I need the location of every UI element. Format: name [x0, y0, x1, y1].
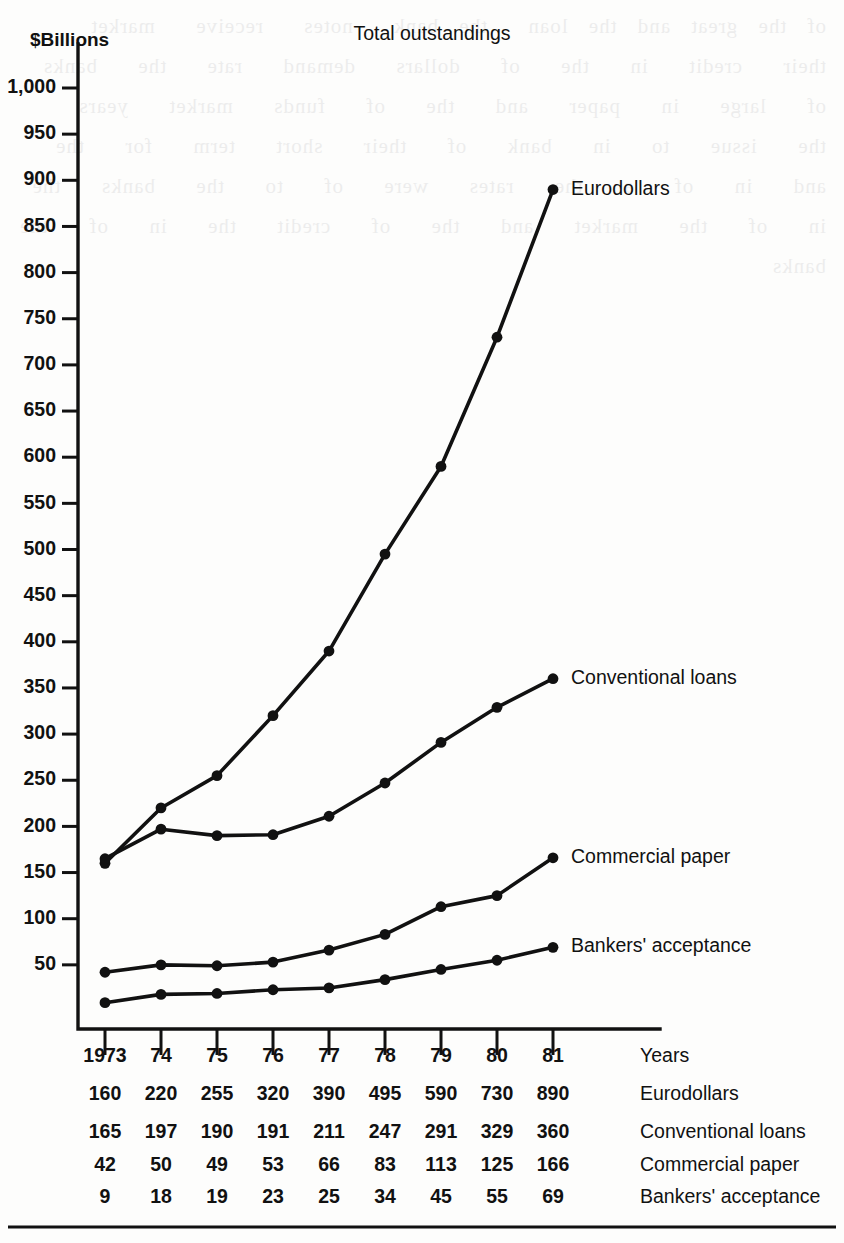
- table-cell: 76: [262, 1044, 284, 1066]
- chart-title: Total outstandings: [353, 22, 510, 44]
- series-point: [156, 959, 167, 970]
- table-row-label: Conventional loans: [640, 1120, 806, 1142]
- series-point: [436, 901, 447, 912]
- total-outstandings-line-chart: Total outstandings $Billions 1,000950900…: [0, 0, 844, 1243]
- series-point: [156, 803, 167, 814]
- series-point: [492, 955, 503, 966]
- series-label-0: Eurodollars: [571, 177, 670, 199]
- series-point: [212, 960, 223, 971]
- table-cell: 390: [313, 1082, 346, 1104]
- y-axis-tick-label: 550: [23, 491, 56, 513]
- series-point: [492, 890, 503, 901]
- table-cell: 83: [374, 1153, 396, 1175]
- series-point: [100, 853, 111, 864]
- table-cell: 160: [89, 1082, 122, 1104]
- table-cell: 55: [486, 1185, 508, 1207]
- y-axis-tick-label: 1,000: [7, 75, 56, 97]
- series-label-1: Conventional loans: [571, 666, 737, 688]
- table-cell: 1973: [83, 1044, 127, 1066]
- table-cell: 125: [481, 1153, 514, 1175]
- y-axis-tick-label: 600: [23, 444, 56, 466]
- table-row-label: Commercial paper: [640, 1153, 800, 1175]
- table-cell: 165: [89, 1120, 122, 1142]
- series-point: [324, 983, 335, 994]
- series-point: [548, 673, 559, 684]
- series-point: [380, 974, 391, 985]
- series-line-0: [105, 190, 553, 864]
- table-cell: 80: [486, 1044, 508, 1066]
- table-cell: 495: [369, 1082, 402, 1104]
- series-point: [100, 967, 111, 978]
- series-point: [156, 824, 167, 835]
- series-line-3: [105, 947, 553, 1002]
- table-cell: 166: [537, 1153, 570, 1175]
- table-cell: 18: [150, 1185, 172, 1207]
- table-cell: 23: [262, 1185, 284, 1207]
- table-cell: 211: [313, 1120, 345, 1142]
- series-point: [380, 549, 391, 560]
- series-point: [380, 929, 391, 940]
- series-point: [548, 852, 559, 863]
- table-cell: 74: [150, 1044, 172, 1066]
- series-point: [212, 770, 223, 781]
- table-row-label: Bankers' acceptance: [640, 1185, 820, 1207]
- series-point: [324, 811, 335, 822]
- y-axis-tick-label: 500: [23, 537, 56, 559]
- y-axis-tick-label: 200: [23, 814, 56, 836]
- table-cell: 255: [201, 1082, 234, 1104]
- series-group: [100, 184, 559, 1008]
- y-axis-tick-label: 950: [23, 121, 56, 143]
- series-point: [548, 942, 559, 953]
- table-row-label: Eurodollars: [640, 1082, 739, 1104]
- y-axis-tick-label: 800: [23, 260, 56, 282]
- table-cell: 25: [318, 1185, 340, 1207]
- y-axis-tick-label: 900: [23, 167, 56, 189]
- data-table-group: 19737475767778798081Years160220255320390…: [83, 1044, 820, 1207]
- table-cell: 220: [145, 1082, 178, 1104]
- table-cell: 42: [94, 1153, 116, 1175]
- page-canvas: of the great and the loan the bank notes…: [0, 0, 844, 1243]
- y-axis-tick-label: 150: [23, 860, 56, 882]
- series-point: [100, 997, 111, 1008]
- table-cell: 890: [537, 1082, 570, 1104]
- table-cell: 45: [430, 1185, 452, 1207]
- y-axis-tick-label: 350: [23, 675, 56, 697]
- table-cell: 77: [318, 1044, 340, 1066]
- series-labels-group: EurodollarsConventional loansCommercial …: [571, 177, 751, 957]
- series-point: [436, 737, 447, 748]
- y-axis-tick-label: 850: [23, 214, 56, 236]
- y-axis-tick-label: 250: [23, 767, 56, 789]
- table-cell: 730: [481, 1082, 514, 1104]
- table-cell: 247: [369, 1120, 402, 1142]
- series-line-1: [105, 679, 553, 859]
- series-point: [268, 957, 279, 968]
- table-cell: 590: [425, 1082, 458, 1104]
- table-cell: 9: [100, 1185, 111, 1207]
- series-point: [212, 830, 223, 841]
- series-point: [268, 984, 279, 995]
- table-cell: 34: [374, 1185, 396, 1207]
- y-axis-tick-label: 650: [23, 398, 56, 420]
- y-axis-ticks-group: 1,00095090085080075070065060055050045040…: [7, 75, 78, 974]
- table-cell: 49: [206, 1153, 228, 1175]
- series-point: [436, 964, 447, 975]
- table-cell: 191: [257, 1120, 290, 1142]
- series-point: [324, 646, 335, 657]
- table-cell: 320: [257, 1082, 290, 1104]
- table-cell: 79: [430, 1044, 452, 1066]
- y-axis-tick-label: 400: [23, 629, 56, 651]
- series-point: [492, 702, 503, 713]
- y-axis-tick-label: 100: [23, 906, 56, 928]
- y-axis-tick-label: 50: [34, 952, 56, 974]
- table-cell: 113: [425, 1153, 457, 1175]
- series-point: [548, 184, 559, 195]
- y-axis-tick-label: 750: [23, 306, 56, 328]
- series-point: [212, 988, 223, 999]
- table-row-label: Years: [640, 1044, 689, 1066]
- table-cell: 81: [542, 1044, 564, 1066]
- table-cell: 291: [425, 1120, 458, 1142]
- y-axis-title: $Billions: [30, 29, 109, 50]
- series-point: [268, 829, 279, 840]
- series-point: [268, 710, 279, 721]
- table-cell: 360: [537, 1120, 570, 1142]
